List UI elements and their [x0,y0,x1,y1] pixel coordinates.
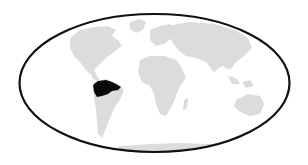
landmass-africa [138,56,186,116]
landmass-greenland [130,19,146,33]
landmass-madagascar [183,98,188,110]
landmass-southeast-asia [228,76,254,88]
landmass-australia [234,94,264,116]
world-map-svg [0,0,308,165]
world-map [0,0,308,165]
landmass-north-america [70,26,122,76]
